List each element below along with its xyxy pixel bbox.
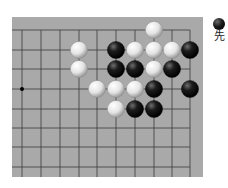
white-stone[interactable]	[70, 41, 87, 58]
white-stone[interactable]	[107, 80, 124, 97]
black-stone[interactable]	[107, 41, 124, 58]
black-stone[interactable]	[145, 100, 162, 117]
white-stone[interactable]	[163, 41, 180, 58]
black-stone[interactable]	[181, 80, 198, 97]
black-stone[interactable]	[181, 41, 198, 58]
go-board[interactable]	[12, 17, 203, 177]
white-stone[interactable]	[145, 41, 162, 58]
star-point	[20, 87, 24, 91]
black-stone[interactable]	[145, 80, 162, 97]
to-move-label: 先	[211, 31, 227, 43]
black-to-move-stone-icon	[213, 18, 225, 30]
black-stone[interactable]	[163, 60, 180, 77]
white-stone[interactable]	[145, 60, 162, 77]
white-stone[interactable]	[88, 80, 105, 97]
black-stone[interactable]	[107, 60, 124, 77]
white-stone[interactable]	[126, 41, 143, 58]
black-stone[interactable]	[126, 60, 143, 77]
white-stone[interactable]	[126, 80, 143, 97]
white-stone[interactable]	[70, 60, 87, 77]
white-stone[interactable]	[107, 100, 124, 117]
white-stone[interactable]	[145, 21, 162, 38]
black-stone[interactable]	[126, 100, 143, 117]
board-grid	[12, 17, 203, 177]
